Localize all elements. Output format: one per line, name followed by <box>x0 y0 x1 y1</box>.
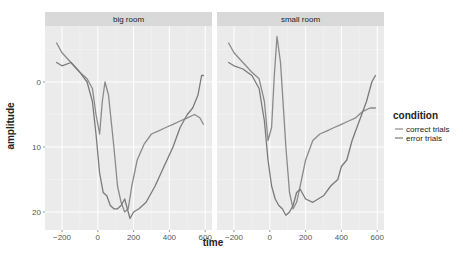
y-tick-label: 0 <box>37 78 42 87</box>
legend-title: condition <box>393 110 438 121</box>
x-tick-label: 0 <box>96 233 101 242</box>
facet-panel-small-room: small room−2000200400600 <box>217 12 384 242</box>
legend-label-error: error trials <box>406 134 442 143</box>
y-tick-label: 10 <box>32 143 41 152</box>
x-tick-label: 600 <box>371 233 385 242</box>
x-tick-label: −200 <box>225 233 244 242</box>
facet-strip-label: small room <box>281 15 320 24</box>
x-tick-label: 400 <box>163 233 177 242</box>
x-axis-title: time <box>203 237 224 248</box>
y-tick-label: 20 <box>32 208 41 217</box>
x-tick-label: −200 <box>53 233 72 242</box>
x-tick-label: 0 <box>268 233 273 242</box>
x-tick-label: 200 <box>127 233 141 242</box>
panel-background <box>45 26 212 230</box>
x-tick-label: 400 <box>335 233 349 242</box>
facet-panel-big-room: big room−200020040060001020 <box>32 12 212 242</box>
legend: condition correct trials error trials <box>393 110 450 143</box>
faceted-line-chart: big room−200020040060001020small room−20… <box>0 0 463 257</box>
y-axis-title: amplitude <box>5 102 16 150</box>
facet-strip-label: big room <box>113 15 144 24</box>
x-tick-label: 200 <box>299 233 313 242</box>
legend-label-correct: correct trials <box>406 125 450 134</box>
panel-background <box>217 26 384 230</box>
